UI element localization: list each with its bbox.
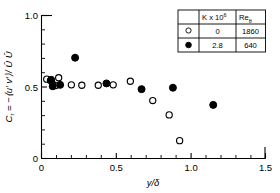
data-point-open-circle [95, 82, 101, 88]
legend-row-1-re: 640 [244, 41, 257, 50]
x-axis-major-ticks [42, 153, 266, 159]
data-point-open-circle [127, 78, 133, 84]
data-point-filled-circle [72, 54, 79, 61]
legend-header-k-exponent: 6 [224, 12, 227, 18]
x-tick-label-1.5: 1.5 [259, 162, 272, 173]
data-point-filled-circle [169, 84, 176, 91]
y-tick-label-0: 0 [33, 153, 38, 164]
legend-marker-filled-circle [186, 42, 192, 48]
legend-header-re-text: Re [239, 13, 249, 22]
y-axis-title: Cτ = −⟨u′ v′⟩/ Û Û [3, 51, 15, 122]
y-axis-title-tail: Û Û [3, 51, 14, 68]
y-axis-major-ticks [42, 16, 48, 159]
legend-header-re-subscript: θ [249, 18, 252, 24]
data-point-filled-circle [103, 80, 110, 87]
x-axis-title: y/δ [146, 177, 160, 188]
x-tick-label-0.5: 0.5 [110, 162, 123, 173]
data-point-open-circle [150, 97, 156, 103]
y-tick-label-0.5: 0.5 [25, 82, 38, 93]
y-tick-label-1: 1.0 [25, 10, 38, 21]
svg-text:Cτ = −⟨u′ v′⟩/ Û Û: Cτ = −⟨u′ v′⟩/ Û Û [3, 51, 15, 122]
data-point-filled-circle [210, 101, 217, 108]
x-tick-label-1.0: 1.0 [184, 162, 197, 173]
data-point-open-circle [56, 75, 62, 81]
legend-table: K x 106 Reθ 0 1860 2.8 640 [178, 10, 266, 52]
legend-header-k-text: K x 10 [202, 13, 224, 22]
legend-row-0-k: 0 [215, 27, 219, 36]
data-point-filled-circle [48, 76, 55, 83]
data-point-filled-circle [49, 83, 56, 90]
scatter-plot-figure: 1.0 0.5 0 0 0.5 1.0 1.5 y/δ Cτ = −⟨u′ v′… [0, 0, 280, 193]
data-point-open-circle [166, 112, 172, 118]
y-axis-title-mid: = −⟨u′ v′⟩/ [3, 68, 14, 114]
data-point-open-circle [177, 138, 183, 144]
legend-row-1-k: 2.8 [212, 41, 223, 50]
x-tick-label-0: 0 [39, 162, 44, 173]
data-point-filled-circle [57, 81, 64, 88]
legend-row-0-re: 1860 [242, 27, 259, 36]
data-point-open-circle [68, 82, 74, 88]
legend-header-k: K x 106 [202, 12, 227, 22]
data-point-filled-circle [138, 86, 145, 93]
plot-canvas: 1.0 0.5 0 0 0.5 1.0 1.5 y/δ Cτ = −⟨u′ v′… [0, 0, 280, 193]
data-point-open-circle [110, 82, 116, 88]
data-markers-group [44, 54, 217, 144]
data-point-open-circle [79, 82, 85, 88]
